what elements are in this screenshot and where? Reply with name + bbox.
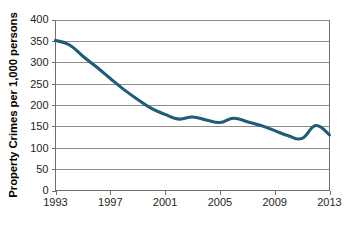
y-tick-label-300: 300 bbox=[30, 56, 48, 68]
y-axis-title: Property Crimes per 1,000 persons bbox=[7, 12, 19, 197]
y-tick-labels: 400350300250200150100500 bbox=[30, 13, 48, 196]
x-tick-labels: 199319972001200520092013 bbox=[43, 196, 341, 208]
y-tick-label-150: 150 bbox=[30, 120, 48, 132]
property-crimes-line-chart: Property Crimes per 1,000 persons 400350… bbox=[0, 0, 355, 230]
y-tick-label-350: 350 bbox=[30, 35, 48, 47]
x-tick-label-2001: 2001 bbox=[153, 196, 177, 208]
y-axis-title-group: Property Crimes per 1,000 persons bbox=[7, 12, 19, 197]
gridlines bbox=[56, 21, 330, 170]
x-tick-label-2013: 2013 bbox=[317, 196, 341, 208]
x-tick-label-1993: 1993 bbox=[43, 196, 67, 208]
y-tick-label-250: 250 bbox=[30, 78, 48, 90]
property-crimes-series-line bbox=[56, 40, 330, 139]
y-tick-label-400: 400 bbox=[30, 13, 48, 25]
x-tick-label-2009: 2009 bbox=[262, 196, 286, 208]
chart-canvas: Property Crimes per 1,000 persons 400350… bbox=[0, 0, 355, 230]
x-tick-label-2005: 2005 bbox=[208, 196, 232, 208]
y-tick-label-100: 100 bbox=[30, 142, 48, 154]
x-tick-marks bbox=[57, 191, 331, 195]
y-tick-label-50: 50 bbox=[36, 163, 48, 175]
y-tick-label-200: 200 bbox=[30, 99, 48, 111]
x-tick-label-1997: 1997 bbox=[98, 196, 122, 208]
